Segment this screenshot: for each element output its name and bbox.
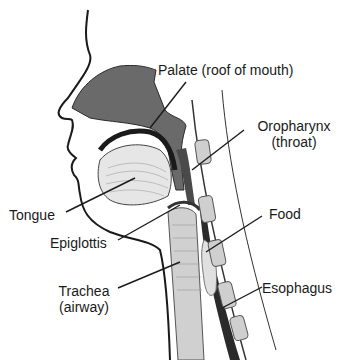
label-epiglottis: Epiglottis (50, 235, 107, 251)
label-oropharynx: Oropharynx (throat) (248, 118, 340, 150)
label-oropharynx-line2: (throat) (248, 134, 340, 150)
label-palate: Palate (roof of mouth) (158, 62, 293, 78)
label-food: Food (269, 206, 301, 222)
label-trachea: Trachea (airway) (54, 283, 114, 315)
trachea-tube (168, 208, 204, 360)
label-tongue: Tongue (9, 207, 55, 223)
swallowing-anatomy-illustration (0, 0, 344, 360)
label-trachea-line1: Trachea (54, 283, 114, 299)
label-trachea-line2: (airway) (54, 299, 114, 315)
label-oropharynx-line1: Oropharynx (248, 118, 340, 134)
trachea-leader-line (118, 262, 180, 288)
label-esophagus: Esophagus (262, 280, 332, 296)
